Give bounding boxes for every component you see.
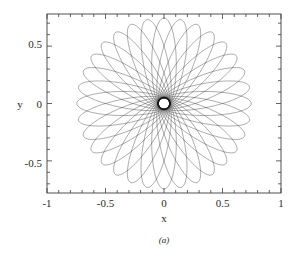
plot-frame [47, 14, 281, 193]
x-tick-label: 0.5 [216, 197, 230, 209]
figure-panel: -1 -0.5 0 0.5 1 0.5 0 -0.5 x y (a) [0, 0, 301, 256]
x-tick-label: -1 [42, 197, 51, 209]
y-tick-label: 0.5 [28, 38, 42, 50]
orbit-plot: -1 -0.5 0 0.5 1 0.5 0 -0.5 x y (a) [0, 0, 301, 256]
x-axis-label: x [161, 212, 167, 224]
x-tick-label: -0.5 [97, 197, 115, 209]
y-axis-ticks [47, 23, 52, 184]
x-axis-ticks [47, 188, 281, 193]
y-axis-ticks-right [276, 23, 281, 184]
panel-caption: (a) [159, 235, 170, 245]
y-tick-label: 0 [37, 98, 43, 110]
orbit-trajectory [77, 18, 251, 189]
x-axis-ticks-top [47, 14, 281, 19]
x-tick-label: 1 [278, 197, 284, 209]
y-axis-label: y [17, 98, 23, 110]
x-tick-label: 0 [161, 197, 167, 209]
orbit-curve [77, 18, 251, 189]
y-tick-label: -0.5 [25, 157, 43, 169]
